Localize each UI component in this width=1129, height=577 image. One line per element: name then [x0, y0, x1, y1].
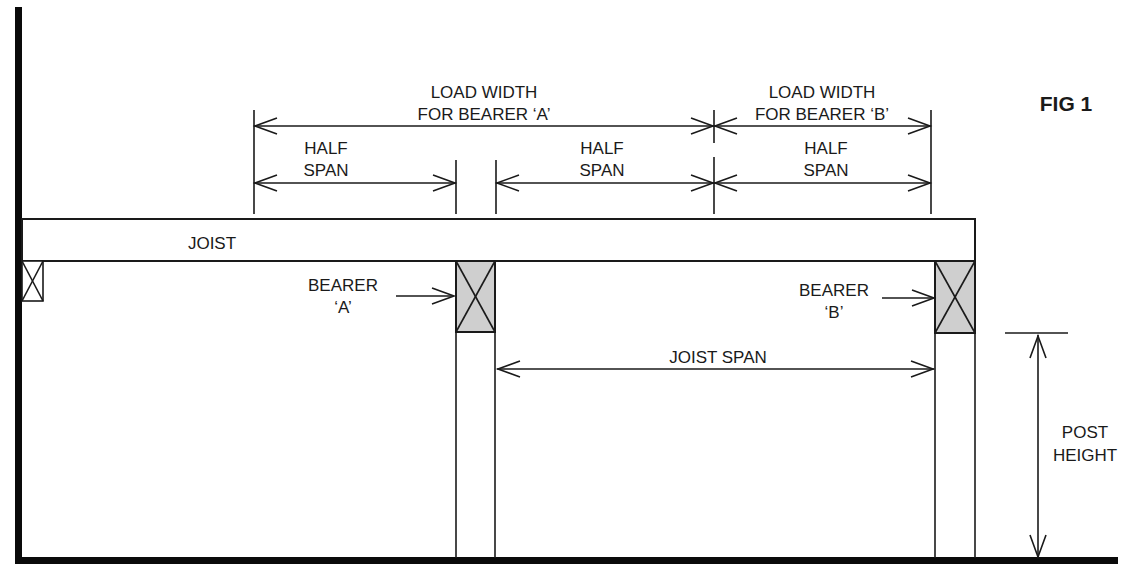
half-span-1-label-line2: SPAN	[303, 161, 348, 180]
half-span-2-label-line1: HALF	[580, 139, 623, 158]
half-span-3-label-line2: SPAN	[803, 161, 848, 180]
bearer-b-label-line2: ‘B’	[825, 303, 844, 322]
post-height-dimension	[1030, 335, 1046, 557]
bearer-a-label-line2: ‘A’	[334, 298, 352, 317]
post-height-label-line1: POST	[1062, 423, 1108, 442]
joist-beam	[22, 219, 975, 261]
load-width-b-label-line2: FOR BEARER ‘B’	[755, 105, 889, 124]
half-span-1-label-line1: HALF	[304, 139, 347, 158]
load-width-a-label-line1: LOAD WIDTH	[431, 83, 538, 102]
wall-bearer	[22, 261, 43, 301]
load-width-a-label-line2: FOR BEARER ‘A’	[418, 105, 551, 124]
bearer-b-label-line1: BEARER	[799, 281, 869, 300]
bearer-a-label-line1: BEARER	[308, 276, 378, 295]
bearer-a	[456, 261, 495, 332]
joist-bearer-diagram: JOIST LOAD WIDTH FOR BEARER ‘A’	[0, 0, 1129, 577]
half-span-1-dimension	[254, 175, 456, 191]
half-span-2-label-line2: SPAN	[579, 161, 624, 180]
figure-title: FIG 1	[1040, 92, 1093, 115]
half-span-3-label-line1: HALF	[804, 139, 847, 158]
joist-label: JOIST	[188, 234, 236, 253]
post-b	[935, 333, 975, 558]
post-height-label-line2: HEIGHT	[1053, 446, 1117, 465]
bearer-a-pointer-arrow	[396, 288, 454, 304]
bearer-b-pointer-arrow	[882, 290, 934, 306]
bearer-b	[935, 261, 975, 333]
post-a	[456, 332, 495, 558]
joist-span-label: JOIST SPAN	[669, 348, 767, 367]
load-width-b-label-line1: LOAD WIDTH	[769, 83, 876, 102]
